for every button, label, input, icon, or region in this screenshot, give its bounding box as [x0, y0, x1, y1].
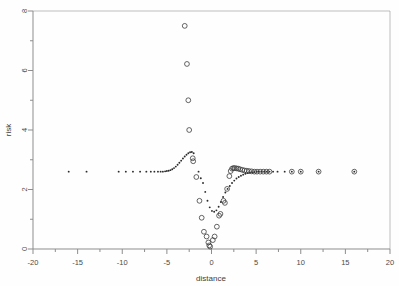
x-tick-label: -10: [117, 258, 128, 267]
data-point-dot: [240, 175, 242, 177]
x-tick-label: -5: [164, 258, 171, 267]
data-point-dot: [224, 192, 226, 194]
data-point-dot: [198, 171, 200, 173]
x-tick-label: 0: [209, 258, 213, 267]
x-axis-ticks: [33, 249, 390, 254]
data-point-dot: [145, 171, 147, 173]
scatter-plot-canvas: -20-15-10-505101520 02468 distance risk: [0, 0, 399, 286]
data-point-dot: [272, 171, 274, 173]
data-point-circle: [202, 229, 207, 234]
data-point-dot: [175, 166, 177, 168]
y-axis-ticks: [28, 11, 33, 249]
data-point-dot: [184, 156, 186, 158]
data-point-dot: [132, 171, 134, 173]
data-point-dot: [191, 151, 193, 153]
data-point-dot: [229, 185, 231, 187]
y-axis-tick-labels: 02468: [20, 9, 29, 251]
data-point-dot: [168, 170, 170, 172]
x-tick-label: 15: [341, 258, 349, 267]
x-tick-label: -20: [28, 258, 39, 267]
y-tick-label: 6: [20, 68, 29, 72]
data-point-dot: [318, 171, 320, 173]
data-point-dot: [215, 209, 217, 211]
data-point-circle: [186, 98, 191, 103]
data-point-dot: [202, 182, 204, 184]
data-point-dot: [291, 171, 293, 173]
data-point-dot: [233, 180, 235, 182]
data-point-dot: [118, 171, 120, 173]
data-point-dot: [207, 200, 209, 202]
data-point-circle: [194, 175, 199, 180]
data-point-dot: [139, 171, 141, 173]
x-tick-label: 20: [386, 258, 394, 267]
chart-figure: -20-15-10-505101520 02468 distance risk: [0, 0, 399, 286]
data-point-dot: [211, 210, 213, 212]
data-point-dot: [178, 162, 180, 164]
data-point-dot: [177, 164, 179, 166]
data-point-dot: [222, 196, 224, 198]
data-point-dot: [231, 182, 233, 184]
data-point-dot: [153, 171, 155, 173]
data-point-dot: [164, 170, 166, 172]
data-point-dot: [187, 152, 189, 154]
data-point-dot: [213, 211, 215, 213]
data-point-dot: [162, 171, 164, 173]
data-point-dot: [182, 158, 184, 160]
series-fitted-dots: [68, 151, 355, 213]
data-point-circle: [199, 215, 204, 220]
data-point-circle: [187, 128, 192, 133]
data-point-dot: [193, 152, 195, 154]
data-point-dot: [150, 171, 152, 173]
y-tick-label: 8: [20, 9, 29, 13]
series-observed-circles: [182, 23, 356, 249]
y-tick-label: 4: [20, 128, 29, 132]
data-point-dot: [242, 174, 244, 176]
data-point-dot: [284, 171, 286, 173]
x-tick-label: 10: [297, 258, 305, 267]
data-point-dot: [236, 178, 238, 180]
data-point-dot: [86, 171, 88, 173]
data-point-dot: [171, 168, 173, 170]
data-point-dot: [277, 171, 279, 173]
data-point-dot: [180, 160, 182, 162]
x-tick-label: -15: [72, 258, 83, 267]
data-point-circle: [208, 244, 213, 249]
y-tick-label: 0: [20, 247, 29, 251]
data-point-dot: [68, 171, 70, 173]
data-point-dot: [125, 171, 127, 173]
data-point-dot: [186, 154, 188, 156]
x-axis-tick-labels: -20-15-10-505101520: [28, 258, 395, 267]
y-tick-label: 2: [20, 187, 29, 191]
data-point-dot: [238, 176, 240, 178]
data-point-dot: [157, 171, 159, 173]
data-point-circle: [227, 174, 232, 179]
data-point-circle: [214, 224, 219, 229]
data-point-dot: [200, 177, 202, 179]
data-point-dot: [166, 170, 168, 172]
data-point-circle: [185, 62, 190, 67]
x-tick-label: 5: [254, 258, 258, 267]
plot-frame: [33, 11, 390, 249]
data-point-circle: [182, 23, 187, 28]
data-point-dot: [169, 169, 171, 171]
data-point-dot: [209, 206, 211, 208]
y-axis-title: risk: [4, 123, 13, 136]
data-point-circle: [191, 159, 196, 164]
x-axis-title: distance: [196, 274, 226, 283]
data-point-dot: [204, 191, 206, 193]
data-point-dot: [160, 171, 162, 173]
data-point-dot: [353, 171, 355, 173]
data-point-dot: [227, 188, 229, 190]
data-point-dot: [189, 151, 191, 153]
data-point-circle: [197, 198, 202, 203]
data-point-dot: [173, 167, 175, 169]
data-point-circle: [204, 234, 209, 239]
data-point-dot: [218, 206, 220, 208]
data-point-dot: [300, 171, 302, 173]
